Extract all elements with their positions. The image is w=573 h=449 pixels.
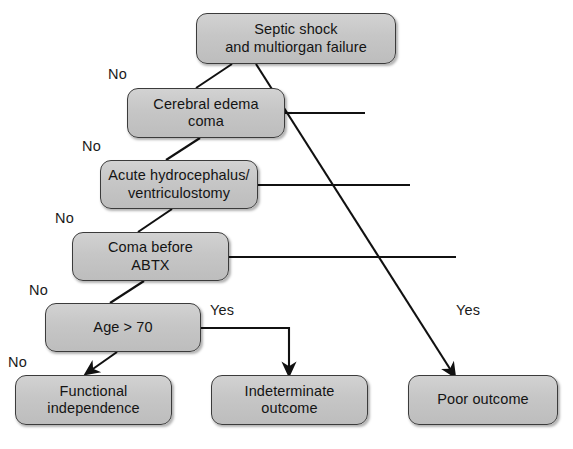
edge-label-yes-1: Yes	[210, 303, 234, 318]
connector-septic-to-poor-outcome	[256, 64, 452, 372]
edge-label-no-3: No	[55, 211, 74, 226]
node-coma-before-abtx[interactable]: Coma before ABTX	[72, 232, 229, 281]
edge-label-no-5: No	[8, 355, 27, 370]
node-age-over-70-label: Age > 70	[93, 319, 152, 336]
decision-tree-diagram: Septic shock and multiorgan failure Cere…	[0, 0, 573, 449]
edge-label-no-1: No	[108, 67, 127, 82]
connector-hydrocephalus-to-coma	[138, 209, 172, 232]
node-acute-hydrocephalus-label: Acute hydrocephalus/ ventriculostomy	[108, 167, 249, 201]
node-indeterminate-outcome-label: Indeterminate outcome	[245, 383, 335, 417]
edge-label-no-2: No	[82, 139, 101, 154]
node-acute-hydrocephalus[interactable]: Acute hydrocephalus/ ventriculostomy	[100, 160, 258, 209]
node-cerebral-edema[interactable]: Cerebral edema coma	[127, 88, 285, 138]
node-poor-outcome-label: Poor outcome	[437, 391, 528, 408]
node-functional-independence-label: Functional independence	[47, 383, 139, 417]
node-septic-shock-label: Septic shock and multiorgan failure	[225, 21, 367, 55]
connector-cerebral-edema-to-hydrocephalus	[166, 138, 200, 160]
node-coma-before-abtx-label: Coma before ABTX	[108, 239, 193, 273]
connector-age-to-functional-independence	[90, 352, 117, 371]
node-indeterminate-outcome[interactable]: Indeterminate outcome	[211, 375, 368, 425]
node-age-over-70[interactable]: Age > 70	[45, 303, 201, 352]
node-functional-independence[interactable]: Functional independence	[15, 375, 172, 425]
connector-septic-to-cerebral-edema	[196, 64, 232, 88]
node-cerebral-edema-label: Cerebral edema coma	[153, 96, 258, 130]
connector-coma-to-age	[110, 281, 144, 303]
edge-label-no-4: No	[29, 283, 48, 298]
node-septic-shock[interactable]: Septic shock and multiorgan failure	[196, 13, 396, 64]
connector-age-to-indeterminate-outcome	[201, 328, 289, 370]
edge-label-yes-2: Yes	[456, 303, 480, 318]
node-poor-outcome[interactable]: Poor outcome	[408, 375, 558, 425]
